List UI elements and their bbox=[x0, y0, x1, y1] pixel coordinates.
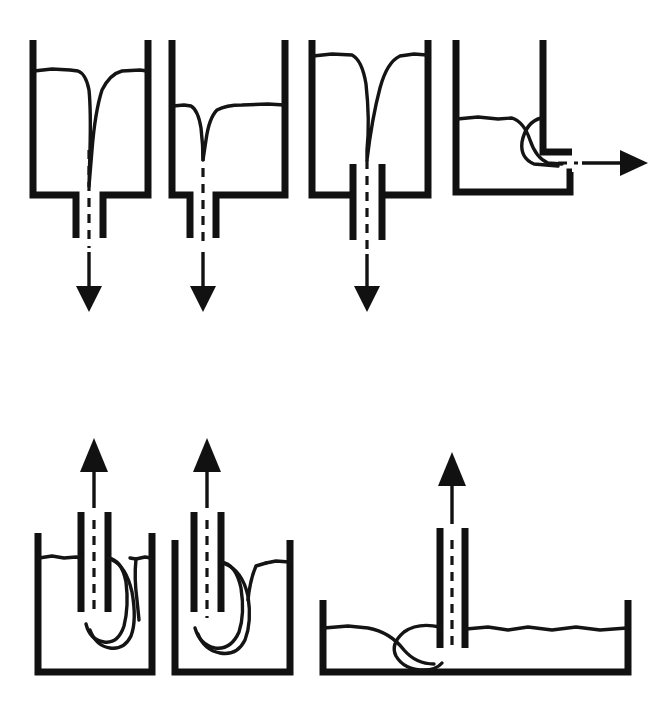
panel-5-free-surface-left bbox=[39, 556, 81, 558]
figure-background bbox=[0, 0, 665, 711]
vortex-formation-diagram bbox=[0, 0, 665, 711]
panel-5-free-surface-far-right bbox=[136, 557, 151, 559]
figure-root bbox=[0, 0, 665, 711]
panel-6-free-surface-far-right bbox=[266, 561, 289, 563]
